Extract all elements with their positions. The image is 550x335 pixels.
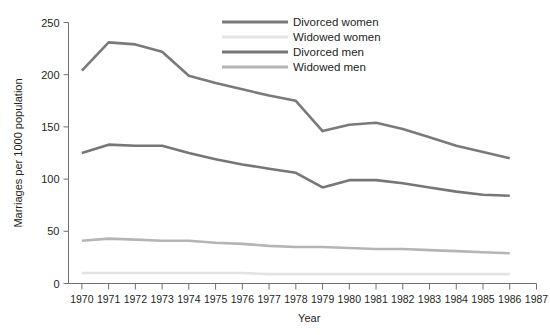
x-tick-label: 1983 (418, 293, 442, 305)
y-tick-label: 0 (53, 278, 59, 290)
x-tick-label: 1975 (204, 293, 228, 305)
x-axis-title: Year (298, 312, 321, 324)
y-tick-label: 250 (41, 17, 59, 29)
x-tick-label: 1972 (124, 293, 148, 305)
legend-label-widowed-women: Widowed women (293, 31, 381, 43)
chart-canvas: 050100150200250 197019711972197319741975… (0, 0, 550, 335)
y-axis-title: Marriages per 1000 population (12, 78, 24, 227)
legend-label-widowed-men: Widowed men (293, 61, 366, 73)
x-axis: 1970197119721973197419751976197719781979… (69, 284, 549, 305)
x-tick-label: 1970 (70, 293, 94, 305)
line-chart: 050100150200250 197019711972197319741975… (0, 0, 550, 335)
x-tick-label: 1979 (311, 293, 335, 305)
series-line-widowed-women (82, 273, 510, 274)
chart-legend: Divorced womenWidowed womenDivorced menW… (222, 16, 381, 73)
x-tick-label: 1987 (525, 293, 549, 305)
x-tick-label: 1985 (471, 293, 495, 305)
y-tick-label: 200 (41, 69, 59, 81)
x-tick-label: 1974 (177, 293, 201, 305)
y-axis: 050100150200250 (41, 17, 68, 290)
legend-label-divorced-women: Divorced women (293, 16, 379, 28)
legend-label-divorced-men: Divorced men (293, 46, 364, 58)
x-tick-label: 1982 (391, 293, 415, 305)
x-tick-label: 1971 (97, 293, 121, 305)
x-tick-label: 1973 (150, 293, 174, 305)
y-tick-label: 50 (47, 225, 59, 237)
x-tick-label: 1984 (445, 293, 469, 305)
x-tick-label: 1981 (364, 293, 388, 305)
data-series-group (82, 42, 510, 274)
series-line-divorced-women (82, 42, 510, 158)
series-line-widowed-men (82, 239, 510, 254)
series-line-divorced-men (82, 145, 510, 196)
x-tick-label: 1986 (498, 293, 522, 305)
y-tick-label: 100 (41, 173, 59, 185)
x-tick-label: 1976 (231, 293, 255, 305)
x-tick-label: 1978 (284, 293, 308, 305)
x-tick-label: 1980 (338, 293, 362, 305)
x-tick-label: 1977 (257, 293, 281, 305)
y-tick-label: 150 (41, 121, 59, 133)
